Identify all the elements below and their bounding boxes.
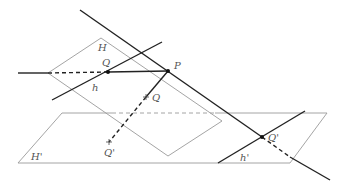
diagram-canvas: H H' P Q Q Q' Q' h h': [0, 0, 343, 192]
geometry-diagram: H H' P Q Q Q' Q' h h': [0, 0, 343, 192]
plane-h-prime-right-edges: [18, 113, 327, 163]
label-q: Q: [102, 57, 110, 68]
point-p: [166, 69, 170, 73]
label-q-prime: Q': [268, 132, 279, 143]
main-line-lower: [290, 157, 330, 180]
label-h-line: h: [92, 82, 98, 93]
point-q: [106, 70, 110, 74]
label-q-mid: Q: [152, 92, 160, 103]
line-pq-hidden: [48, 72, 108, 73]
label-q-prime-low: Q': [104, 147, 115, 158]
line-pq-right: [108, 71, 168, 72]
label-h-prime-plane: H': [30, 151, 42, 162]
point-q-prime: [260, 135, 264, 139]
label-h-plane: H: [97, 42, 107, 53]
label-p: P: [173, 60, 181, 71]
tick-q-prime-low: [106, 139, 112, 145]
label-h-prime-line: h': [240, 152, 249, 163]
